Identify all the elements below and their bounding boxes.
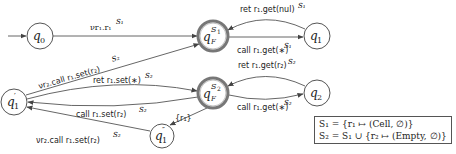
edge-qF2-q2 xyxy=(229,94,303,99)
svg-text:1: 1 xyxy=(217,28,221,35)
svg-text:ret r₁.get(r₂): ret r₁.get(r₂) xyxy=(238,61,287,70)
svg-text:1: 1 xyxy=(317,36,322,45)
label-q2-qF2: ret r₁.get(r₂) S₂ xyxy=(238,58,296,70)
svg-text:S₂: S₂ xyxy=(145,72,153,80)
label-q1pp-q1p: νr₂.call r₁.set(r₂) S₂ xyxy=(36,131,121,145)
svg-text:q: q xyxy=(203,87,211,101)
svg-text:2: 2 xyxy=(217,85,221,92)
state-q1-double-prime: q 1 ″ xyxy=(150,124,174,148)
svg-text:2: 2 xyxy=(317,93,322,102)
edge-q1-qF1 xyxy=(228,20,305,30)
state-qF-S1: q F S 1 xyxy=(198,21,228,51)
svg-text:1: 1 xyxy=(162,136,167,145)
svg-text:S₂: S₂ xyxy=(113,131,121,139)
svg-text:call r₁.set(r₂): call r₁.set(r₂) xyxy=(76,110,126,119)
svg-text:ret r₁.get(nul): ret r₁.get(nul) xyxy=(240,5,295,14)
svg-text:νr₁.r₁: νr₁.r₁ xyxy=(90,23,111,32)
svg-text:{r₁}: {r₁} xyxy=(175,114,192,123)
svg-text:call r₁.get(∗): call r₁.get(∗) xyxy=(237,103,288,112)
state-q0: q 0 xyxy=(27,23,53,49)
label-qF2-q1p: call r₁.set(r₂) S₂ xyxy=(76,106,147,119)
svg-text:″: ″ xyxy=(162,125,165,134)
label-qF1-q1: call r₁.get(∗) S₁ xyxy=(237,42,292,55)
svg-text:0: 0 xyxy=(40,36,45,45)
edge-qF2-q1p xyxy=(28,97,198,106)
state-q1: q 1 xyxy=(304,23,330,49)
svg-text:S₁: S₁ xyxy=(284,42,292,50)
svg-text:call r₁.get(∗): call r₁.get(∗) xyxy=(237,46,288,55)
svg-text:S₂: S₂ xyxy=(139,106,147,114)
edge-q2-qF2 xyxy=(228,77,305,87)
label-qF2-q2: call r₁.get(∗) S₂ xyxy=(237,99,292,112)
svg-text:νr₂.call r₁.set(r₂): νr₂.call r₁.set(r₂) xyxy=(36,136,100,145)
svg-text:′: ′ xyxy=(14,91,16,100)
state-q1-prime: q 1 ′ xyxy=(1,89,27,115)
svg-text:S₂: S₂ xyxy=(111,54,121,64)
legend-line-s1: S₁ = {r₁ ↦ (Cell, ∅)} xyxy=(319,119,413,129)
svg-text:q: q xyxy=(203,30,211,44)
svg-text:S₂: S₂ xyxy=(288,58,296,66)
label-q1p-qF2: ret r₁.set(∗) S₂ xyxy=(93,72,153,85)
svg-text:S₁: S₁ xyxy=(116,18,124,26)
svg-text:S₁: S₁ xyxy=(298,2,306,10)
label-q1-qF1: ret r₁.get(nul) S₁ xyxy=(240,2,306,14)
svg-text:1: 1 xyxy=(14,102,19,111)
svg-text:S₂: S₂ xyxy=(284,99,292,107)
state-qF-S2: q F S 2 xyxy=(198,78,228,108)
state-q2: q 2 xyxy=(304,80,330,106)
legend-line-s2: S₂ = S₁ ∪ {r₂ ↦ (Empty, ∅)} xyxy=(319,131,447,141)
label-q0-qF1: νr₁.r₁ S₁ xyxy=(90,18,124,32)
label-qF2-q1pp: {r₁} xyxy=(175,114,192,123)
svg-text:ret r₁.set(∗): ret r₁.set(∗) xyxy=(93,76,141,85)
legend-box: S₁ = {r₁ ↦ (Cell, ∅)} S₂ = S₁ ∪ {r₂ ↦ (E… xyxy=(314,116,452,144)
